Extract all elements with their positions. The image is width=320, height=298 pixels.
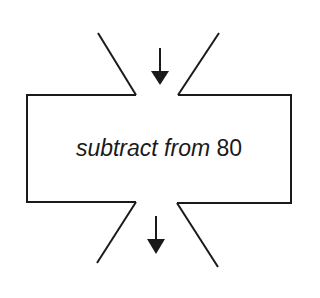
input-funnel [98, 33, 219, 95]
output-funnel [97, 202, 218, 267]
arrow-down-icon [147, 216, 165, 254]
process-label: subtract from 80 [27, 128, 291, 168]
input-funnel-right-line [178, 33, 219, 95]
output-funnel-right-line [177, 203, 218, 267]
output-funnel-left-line [97, 202, 136, 263]
arrow-down-icon [151, 48, 169, 85]
input-funnel-left-line [98, 33, 136, 95]
operand-text: 80 [217, 135, 243, 161]
operation-text: subtract from [76, 135, 210, 161]
